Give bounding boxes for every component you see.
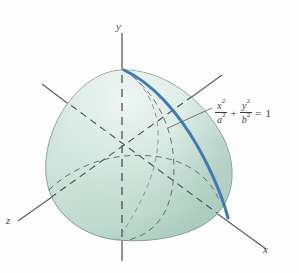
denominator-b-exponent: 2 [247, 111, 251, 119]
axis-label-y: y [116, 20, 121, 32]
denominator-b-base: b [242, 115, 247, 126]
equation-equals-sign: = [255, 107, 261, 119]
denominator-a-exponent: 2 [222, 111, 226, 119]
fraction-numerator-y: y2 [240, 100, 252, 113]
equation-right-hand-side: 1 [265, 107, 271, 119]
equation-plus-operator: + [231, 107, 237, 119]
axis-label-x: x [263, 243, 268, 255]
fraction-y-over-b: y2 b2 [240, 100, 253, 126]
numerator-y-exponent: 2 [246, 97, 250, 105]
numerator-x-exponent: 2 [222, 97, 226, 105]
equation-label: x2 a2 + y2 b2 = 1 [214, 100, 271, 126]
fraction-denominator-a: a2 [215, 113, 228, 125]
fraction-denominator-b: b2 [240, 113, 253, 125]
figure-canvas: x y z x2 a2 + y2 b2 = 1 [0, 0, 299, 273]
surface-diagram-svg [0, 0, 299, 273]
fraction-x-over-a: x2 a2 [215, 100, 228, 126]
axis-label-z: z [6, 214, 10, 226]
